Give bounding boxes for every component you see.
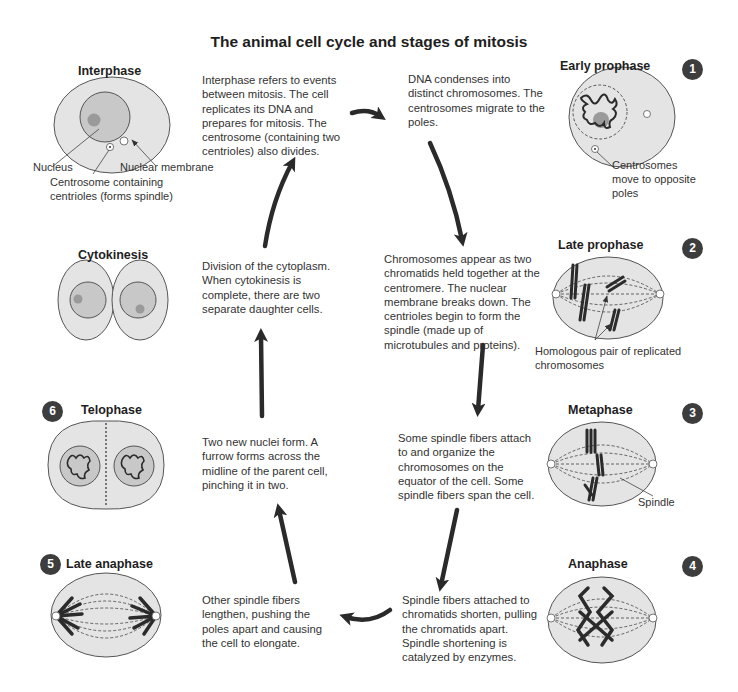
label-nuclear-membrane: Nuclear membrane (120, 160, 214, 174)
label-centrosomes-move: Centrosomes move to opposite poles (612, 158, 707, 200)
stage-description-early-prophase: DNA condenses into distinct chromosomes.… (408, 72, 548, 129)
stage-number-badge-4: 4 (682, 556, 703, 577)
label-nucleus: Nucleus (33, 160, 73, 174)
stage-title-telophase: Telophase (81, 403, 142, 417)
anaphase-cell (547, 577, 657, 663)
cycle-arrows (261, 111, 483, 620)
stage-description-late-prophase: Chromosomes appear as two chromatids hel… (384, 252, 544, 352)
stage-number-badge-2: 2 (682, 238, 703, 259)
stage-number-badge-1: 1 (682, 59, 703, 80)
stage-number-badge-6: 6 (42, 401, 63, 422)
stage-description-interphase: Interphase refers to events between mito… (202, 73, 342, 159)
stage-title-interphase: Interphase (78, 64, 141, 78)
telophase-cell (48, 421, 164, 509)
cytokinesis-cells (58, 260, 168, 340)
label-homologous-pair: Homologous pair of replicated chromosome… (535, 344, 685, 372)
late-anaphase-cell (51, 573, 161, 657)
stage-number-badge-5: 5 (40, 554, 61, 575)
early-prophase-cell (569, 67, 675, 167)
label-spindle: Spindle (638, 495, 675, 509)
late-prophase-cell (552, 257, 664, 340)
stage-title-anaphase: Anaphase (568, 557, 628, 571)
stage-number-badge-3: 3 (682, 403, 703, 424)
stage-title-early-prophase: Early prophase (560, 59, 650, 73)
stage-description-anaphase: Spindle fibers attached to chromatids sh… (402, 593, 547, 664)
stage-title-metaphase: Metaphase (568, 403, 633, 417)
stage-description-telophase: Two new nuclei form. A furrow forms acro… (202, 435, 332, 492)
stage-title-late-prophase: Late prophase (558, 238, 643, 252)
stage-description-cytokinesis: Division of the cytoplasm. When cytokine… (202, 259, 337, 316)
stage-description-metaphase: Some spindle fibers attach to and organi… (398, 431, 543, 502)
label-centrosome: Centrosome containing centrioles (forms … (50, 175, 175, 203)
metaphase-cell (547, 422, 657, 506)
stage-title-late-anaphase: Late anaphase (66, 557, 153, 571)
stage-title-cytokinesis: Cytokinesis (78, 248, 148, 262)
stage-description-late-anaphase: Other spindle fibers lengthen, pushing t… (202, 593, 332, 650)
